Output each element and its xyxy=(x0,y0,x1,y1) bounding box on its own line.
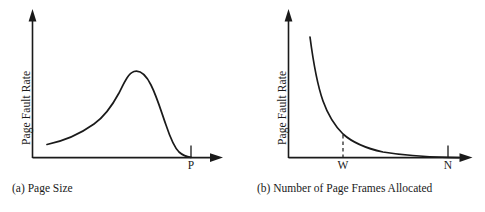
x-tick-label-w: W xyxy=(332,159,354,171)
caption-panel-b: (b) Number of Page Frames Allocated xyxy=(257,182,432,194)
x-tick-label-p: P xyxy=(180,159,202,171)
curve-page-fault-vs-page-size xyxy=(47,71,191,157)
chart-panel-b: Page Fault Rate W N (b) Number of Page F… xyxy=(243,0,485,212)
caption-panel-a: (a) Page Size xyxy=(12,182,73,194)
y-axis-label-b: Page Fault Rate xyxy=(276,71,288,145)
plot-a-svg xyxy=(0,0,242,180)
figure-page-fault-rate-charts: Page Fault Rate P (a) Page Size Page Fau… xyxy=(0,0,485,212)
x-tick-label-n: N xyxy=(437,159,459,171)
curve-page-fault-vs-frames xyxy=(310,37,459,158)
y-axis-label-a: Page Fault Rate xyxy=(20,71,32,145)
chart-panel-a: Page Fault Rate P (a) Page Size xyxy=(0,0,242,212)
